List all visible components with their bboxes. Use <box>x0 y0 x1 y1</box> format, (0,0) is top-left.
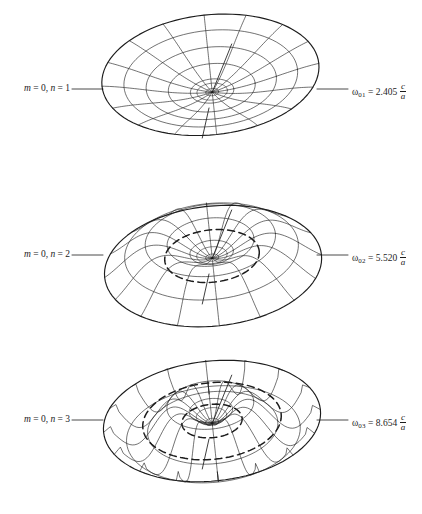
frequency-label-01: ω01 = 2.405ca <box>352 82 406 101</box>
mesh-meridian <box>109 399 212 428</box>
freq-value-01: 2.405 <box>376 87 397 97</box>
mesh-meridian <box>212 92 216 134</box>
mesh-meridian <box>212 92 291 109</box>
freq-numerator-03: c <box>400 413 407 422</box>
mesh-meridian <box>212 25 282 93</box>
mode-label-01-meq: = 0, <box>31 83 51 93</box>
freq-value-02: 5.520 <box>376 253 397 263</box>
freq-value-03: 8.654 <box>376 418 397 428</box>
mode-label-02: m = 0, n = 2 <box>24 250 70 260</box>
mesh-meridian <box>177 258 212 325</box>
mesh-meridian <box>212 421 218 482</box>
freq-numerator-01: c <box>400 82 407 91</box>
mode-label-01: m = 0, n = 1 <box>24 84 70 94</box>
mode-label-01-neq: = 1 <box>55 83 70 93</box>
omega-subscript-03: 03 <box>358 422 365 430</box>
freq-equals-02: = <box>366 253 376 263</box>
mesh-meridian <box>105 245 213 277</box>
frequency-label-03: ω03 = 8.654ca <box>352 413 406 432</box>
freq-numerator-02: c <box>400 248 407 257</box>
membrane-surface-mode-01 <box>102 14 319 138</box>
freq-denominator-01: a <box>400 91 407 101</box>
mode-label-02-neq: = 2 <box>55 249 70 259</box>
mesh-meridian <box>212 407 314 445</box>
mesh-meridian <box>212 258 219 326</box>
mode-label-02-m: m <box>24 249 31 259</box>
membrane-surface-mode-02 <box>104 203 321 327</box>
mode-label-03-meq: = 0, <box>31 414 51 424</box>
symmetry-axis-upper <box>212 210 231 258</box>
mesh-meridian <box>212 419 259 475</box>
symmetry-axis-lower <box>202 108 209 138</box>
omega-subscript-01: 01 <box>358 91 365 99</box>
symmetry-axis-lower <box>202 274 209 304</box>
mesh-meridian <box>138 92 212 125</box>
mesh-meridian <box>166 209 212 258</box>
mesh-meridian <box>204 15 212 92</box>
mode-label-03-neq: = 3 <box>55 414 70 424</box>
membrane-surface-mode-03 <box>103 360 320 483</box>
mode-label-01-m: m <box>24 83 31 93</box>
panels-group <box>102 14 322 483</box>
mode-label-02-meq: = 0, <box>31 249 51 259</box>
mesh-meridian <box>212 63 319 92</box>
mesh-meridian <box>131 384 212 423</box>
mesh-meridian <box>140 419 212 475</box>
mesh-meridian <box>141 258 212 316</box>
mesh-meridian <box>115 255 212 299</box>
omega-subscript-02: 02 <box>358 257 365 265</box>
freq-fraction-02: ca <box>400 248 407 267</box>
mesh-meridian <box>176 421 212 482</box>
freq-denominator-03: a <box>400 422 407 432</box>
symmetry-axis-lower <box>202 439 209 469</box>
freq-equals-03: = <box>366 418 376 428</box>
freq-equals-01: = <box>366 87 376 97</box>
freq-fraction-03: ca <box>400 413 407 432</box>
freq-denominator-02: a <box>400 257 407 267</box>
mode-label-03: m = 0, n = 3 <box>24 415 70 425</box>
mode-label-03-m: m <box>24 414 31 424</box>
freq-fraction-01: ca <box>400 82 407 101</box>
frequency-label-02: ω02 = 5.520ca <box>352 248 406 267</box>
mesh-meridian <box>212 41 308 92</box>
